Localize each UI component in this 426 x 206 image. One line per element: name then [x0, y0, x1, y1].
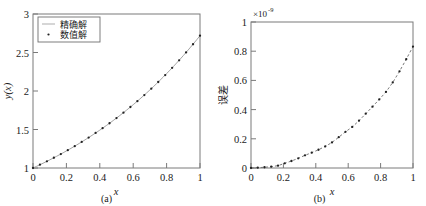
plot-a-ytick-2: 2: [24, 86, 29, 97]
data-point: [67, 149, 69, 151]
data-point: [32, 167, 34, 169]
data-point: [270, 166, 272, 168]
data-point: [358, 120, 360, 122]
plot-b-exponent: ×10 -9: [253, 6, 273, 19]
data-point: [351, 126, 353, 128]
data-point: [199, 35, 201, 37]
data-point: [60, 153, 62, 155]
data-point: [53, 157, 55, 159]
plot-a-ytick-3: 2.5: [16, 48, 29, 59]
data-point: [101, 127, 103, 129]
data-point: [178, 59, 180, 61]
data-point: [108, 122, 110, 124]
data-point: [284, 162, 286, 164]
panel-b: ×10 -9 0 0.2: [213, 0, 426, 206]
data-point: [277, 165, 279, 167]
data-point: [94, 132, 96, 134]
data-point: [297, 157, 299, 159]
data-point: [311, 152, 313, 154]
data-point: [185, 51, 187, 53]
plot-b-xtick-0: 0: [248, 172, 253, 183]
data-point: [81, 141, 83, 143]
plot-b-ytick-3: 0.6: [234, 75, 247, 86]
plot-a-xtick-3: 0.6: [127, 172, 140, 183]
panel-a: 0 0.2 0.4 0.6 0.8 1 1 1.5 2 2.5 3 x y(x): [0, 0, 213, 206]
legend-dot-swatch: [47, 33, 49, 35]
data-point: [39, 164, 41, 166]
data-point: [365, 113, 367, 115]
plot-b-axes: [251, 22, 413, 168]
data-point: [257, 167, 259, 169]
data-point: [324, 145, 326, 147]
data-point: [304, 154, 306, 156]
plot-b-xtick-1: 0.2: [277, 172, 290, 183]
data-point: [192, 43, 194, 45]
data-point: [171, 67, 173, 69]
data-point: [115, 117, 117, 119]
plot-a-xtick-4: 0.8: [160, 172, 173, 183]
data-point: [371, 106, 373, 108]
plot-a-ytick-1: 1.5: [16, 125, 29, 136]
plot-b-svg: ×10 -9 0 0.2: [213, 0, 426, 206]
data-point: [398, 70, 400, 72]
data-point: [250, 167, 252, 169]
data-point: [46, 160, 48, 162]
plot-a-xtick-2: 0.4: [93, 172, 107, 183]
data-point: [88, 136, 90, 138]
panel-b-caption: (b): [213, 193, 426, 204]
plot-a-legend: 精确解 数值解: [38, 17, 100, 42]
plot-b-xtick-2: 0.4: [309, 172, 323, 183]
data-point: [150, 87, 152, 89]
plot-b-exponent-base: ×10: [253, 9, 268, 19]
data-point: [164, 74, 166, 76]
plot-b-ytick-4: 0.8: [234, 46, 247, 57]
data-point: [392, 81, 394, 83]
plot-b-xtick-3: 0.6: [342, 172, 355, 183]
plot-a-ylabel: y(x): [2, 82, 14, 100]
panel-a-caption: (a): [0, 193, 213, 204]
plot-b-xtick-4: 0.8: [374, 172, 387, 183]
data-point: [143, 94, 145, 96]
plot-a-svg: 0 0.2 0.4 0.6 0.8 1 1 1.5 2 2.5 3 x y(x): [0, 0, 213, 206]
data-point: [263, 166, 265, 168]
plot-a-xtick-0: 0: [30, 172, 35, 183]
plot-b-ytick-0: 0: [242, 163, 247, 174]
data-point: [412, 45, 414, 47]
data-point: [317, 149, 319, 151]
legend-label-numerical: 数值解: [60, 29, 87, 40]
plot-b-ylabel: 误差: [217, 85, 229, 105]
data-point: [290, 160, 292, 162]
data-point: [122, 111, 124, 113]
data-point: [129, 106, 131, 108]
data-point: [385, 91, 387, 93]
plot-b-ytick-5: 1: [242, 17, 247, 28]
plot-b-ytick-2: 0.4: [234, 105, 248, 116]
plot-b-ytick-1: 0.2: [234, 134, 247, 145]
plot-a-xtick-5: 1: [197, 172, 202, 183]
data-point: [338, 136, 340, 138]
plot-a-xtick-1: 0.2: [60, 172, 73, 183]
data-point: [74, 145, 76, 147]
plot-b-xtick-5: 1: [410, 172, 415, 183]
data-point: [344, 131, 346, 133]
data-point: [331, 141, 333, 143]
legend-label-exact: 精确解: [60, 19, 87, 30]
data-point: [378, 98, 380, 100]
plot-b-exponent-power: -9: [268, 6, 273, 13]
data-point: [405, 58, 407, 60]
data-point: [157, 81, 159, 83]
data-point: [136, 100, 138, 102]
plot-a-ytick-0: 1: [24, 163, 29, 174]
plot-a-ytick-4: 3: [24, 9, 29, 20]
figure-container: 0 0.2 0.4 0.6 0.8 1 1 1.5 2 2.5 3 x y(x): [0, 0, 426, 206]
